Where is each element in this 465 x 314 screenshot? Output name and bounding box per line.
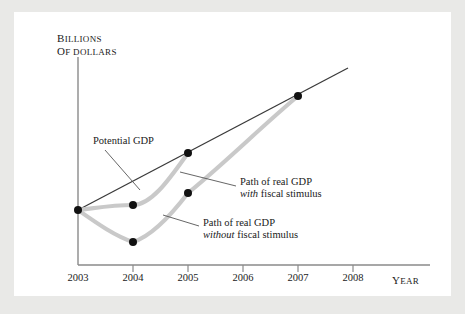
annotation-with-stimulus-emphasis: with [240, 188, 258, 199]
x-tick-label-2007: 2007 [282, 272, 314, 284]
data-point-2005-potential [184, 149, 192, 157]
data-point-2004-with [129, 201, 137, 209]
annotation-without-stimulus-line1: Path of real GDP [203, 217, 298, 229]
annotation-potential-gdp: Potential GDP [93, 135, 154, 147]
y-axis-title-initial: B [57, 32, 65, 44]
y-axis-title-line2: F DOLLARS [65, 47, 116, 57]
annotation-with-stimulus: Path of real GDP with fiscal stimulus [240, 176, 322, 200]
annotation-with-stimulus-line1: Path of real GDP [240, 176, 322, 188]
y-axis-title-line1: ILLIONS [65, 34, 102, 44]
data-point-2005-without [184, 189, 192, 197]
data-point-2004-without [129, 238, 137, 246]
data-point-2007-converge [294, 92, 302, 100]
x-tick-label-2004: 2004 [117, 272, 149, 284]
annotation-without-stimulus: Path of real GDP without fiscal stimulus [203, 217, 298, 241]
data-point-2003 [74, 206, 82, 214]
potential-gdp-leader-line [105, 150, 140, 190]
x-axis-title: YEAR [392, 274, 419, 287]
x-axis-title-initial: Y [392, 274, 400, 286]
without-stimulus-leader-line [163, 215, 199, 226]
x-axis-title-rest: EAR [400, 276, 419, 286]
x-tick-label-2006: 2006 [227, 272, 259, 284]
x-tick-label-2003: 2003 [62, 272, 94, 284]
annotation-without-stimulus-emphasis: without [203, 229, 235, 240]
y-axis-title: BILLIONS OF DOLLARS [57, 32, 117, 57]
y-axis-title-initial2: O [57, 45, 65, 57]
x-tick-label-2008: 2008 [337, 272, 369, 284]
annotation-with-stimulus-line2: fiscal stimulus [258, 188, 322, 199]
annotation-without-stimulus-line2: fiscal stimulus [235, 229, 299, 240]
x-axis-ticks [133, 265, 353, 272]
x-tick-label-2005: 2005 [172, 272, 204, 284]
figure-container: BILLIONS OF DOLLARS 2003 2004 2005 2006 … [0, 0, 465, 314]
